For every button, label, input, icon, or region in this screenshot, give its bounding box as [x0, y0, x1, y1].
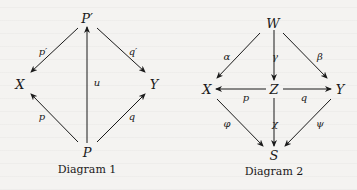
- label-p-prime: p′: [39, 47, 48, 57]
- label-p2: p: [243, 93, 249, 103]
- node-x: X: [15, 78, 24, 91]
- label-q-prime: q′: [129, 47, 138, 57]
- node-y: Y: [150, 78, 159, 91]
- page-background: P′ X Y P p′ q′ u p q Diagram 1 W X Z Y S…: [0, 0, 357, 190]
- node-p: P: [83, 146, 92, 159]
- diagram2-caption: Diagram 2: [245, 165, 304, 178]
- label-chi: χ: [272, 119, 278, 129]
- arrow-p-to-y: [97, 94, 145, 142]
- label-u: u: [94, 78, 100, 88]
- label-q: q: [129, 112, 135, 122]
- diagram1-caption: Diagram 1: [58, 163, 117, 176]
- node-x2: X: [202, 83, 211, 96]
- node-w: W: [266, 17, 279, 30]
- label-psi: ψ: [316, 119, 324, 129]
- label-beta: β: [317, 52, 323, 62]
- label-p: p: [39, 112, 45, 122]
- node-s: S: [270, 149, 279, 162]
- label-gamma: γ: [272, 52, 278, 62]
- label-phi: φ: [223, 119, 230, 129]
- node-y2: Y: [336, 83, 345, 96]
- arrow-pprime-to-y: [97, 28, 145, 72]
- arrow-y-to-s: [285, 99, 331, 146]
- label-alpha: α: [224, 52, 231, 62]
- node-p-prime: P′: [81, 12, 93, 25]
- label-q2: q: [301, 93, 307, 103]
- node-z: Z: [269, 83, 278, 96]
